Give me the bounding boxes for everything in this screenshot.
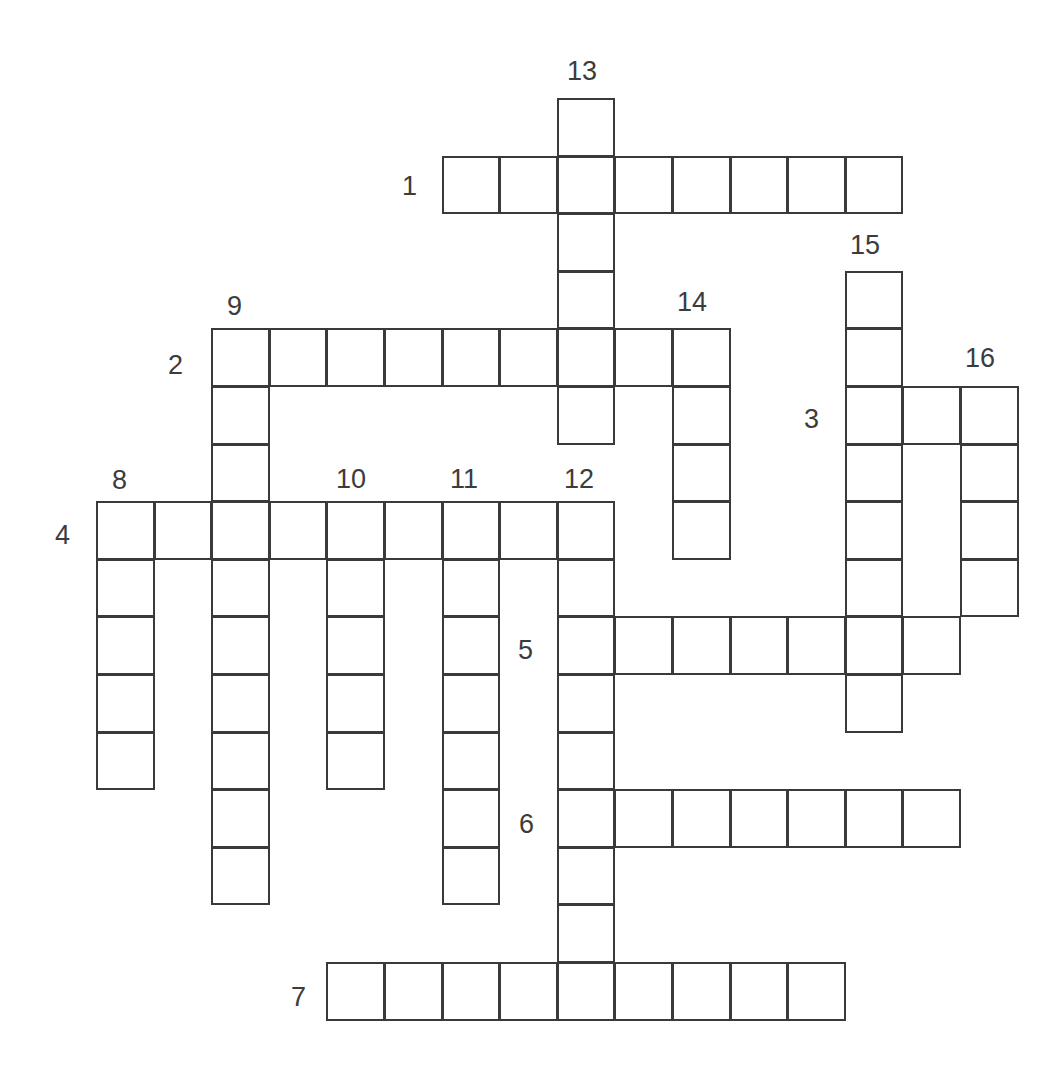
crossword-cell[interactable] bbox=[845, 444, 904, 503]
crossword-cell[interactable] bbox=[96, 674, 155, 733]
crossword-cell[interactable] bbox=[499, 501, 558, 560]
crossword-cell[interactable] bbox=[557, 904, 616, 963]
crossword-cell[interactable] bbox=[499, 156, 558, 215]
crossword-cell[interactable] bbox=[902, 386, 961, 445]
crossword-cell[interactable] bbox=[96, 559, 155, 618]
crossword-cell[interactable] bbox=[845, 501, 904, 560]
crossword-cell[interactable] bbox=[442, 616, 501, 675]
crossword-cell[interactable] bbox=[672, 616, 731, 675]
crossword-cell[interactable] bbox=[96, 732, 155, 791]
crossword-cell[interactable] bbox=[672, 156, 731, 215]
crossword-cell[interactable] bbox=[211, 616, 270, 675]
crossword-cell[interactable] bbox=[557, 328, 616, 387]
clue-number-down-14: 14 bbox=[677, 289, 707, 316]
crossword-cell[interactable] bbox=[787, 962, 846, 1021]
crossword-cell[interactable] bbox=[211, 559, 270, 618]
crossword-cell[interactable] bbox=[326, 962, 385, 1021]
crossword-cell[interactable] bbox=[672, 328, 731, 387]
crossword-cell[interactable] bbox=[442, 501, 501, 560]
clue-number-across-7: 7 bbox=[291, 984, 306, 1011]
crossword-cell[interactable] bbox=[557, 501, 616, 560]
crossword-cell[interactable] bbox=[211, 444, 270, 503]
crossword-cell[interactable] bbox=[672, 501, 731, 560]
crossword-cell[interactable] bbox=[557, 847, 616, 906]
crossword-cell[interactable] bbox=[557, 213, 616, 272]
crossword-cell[interactable] bbox=[845, 156, 904, 215]
crossword-cell[interactable] bbox=[960, 501, 1019, 560]
crossword-cell[interactable] bbox=[902, 616, 961, 675]
crossword-cell[interactable] bbox=[384, 962, 443, 1021]
crossword-cell[interactable] bbox=[154, 501, 213, 560]
clue-number-down-9: 9 bbox=[227, 293, 242, 320]
crossword-cell[interactable] bbox=[557, 156, 616, 215]
crossword-cell[interactable] bbox=[845, 386, 904, 445]
crossword-cell[interactable] bbox=[442, 847, 501, 906]
crossword-cell[interactable] bbox=[557, 559, 616, 618]
crossword-cell[interactable] bbox=[499, 328, 558, 387]
crossword-cell[interactable] bbox=[269, 501, 328, 560]
crossword-cell[interactable] bbox=[557, 732, 616, 791]
crossword-cell[interactable] bbox=[557, 98, 616, 157]
crossword-cell[interactable] bbox=[326, 732, 385, 791]
crossword-cell[interactable] bbox=[845, 559, 904, 618]
crossword-cell[interactable] bbox=[326, 674, 385, 733]
crossword-cell[interactable] bbox=[960, 386, 1019, 445]
crossword-cell[interactable] bbox=[672, 444, 731, 503]
crossword-cell[interactable] bbox=[269, 328, 328, 387]
crossword-cell[interactable] bbox=[211, 328, 270, 387]
crossword-cell[interactable] bbox=[326, 501, 385, 560]
crossword-cell[interactable] bbox=[557, 789, 616, 848]
crossword-cell[interactable] bbox=[499, 962, 558, 1021]
crossword-cell[interactable] bbox=[442, 328, 501, 387]
crossword-cell[interactable] bbox=[211, 501, 270, 560]
crossword-cell[interactable] bbox=[557, 962, 616, 1021]
crossword-cell[interactable] bbox=[211, 732, 270, 791]
crossword-cell[interactable] bbox=[730, 962, 789, 1021]
clue-number-across-5: 5 bbox=[518, 637, 533, 664]
crossword-cell[interactable] bbox=[557, 616, 616, 675]
crossword-cell[interactable] bbox=[960, 444, 1019, 503]
crossword-cell[interactable] bbox=[787, 789, 846, 848]
crossword-cell[interactable] bbox=[902, 789, 961, 848]
crossword-cell[interactable] bbox=[211, 847, 270, 906]
crossword-cell[interactable] bbox=[442, 732, 501, 791]
crossword-cell[interactable] bbox=[326, 616, 385, 675]
crossword-cell[interactable] bbox=[442, 674, 501, 733]
crossword-cell[interactable] bbox=[614, 789, 673, 848]
crossword-cell[interactable] bbox=[787, 616, 846, 675]
crossword-cell[interactable] bbox=[211, 386, 270, 445]
crossword-cell[interactable] bbox=[614, 616, 673, 675]
crossword-cell[interactable] bbox=[845, 789, 904, 848]
crossword-cell[interactable] bbox=[845, 271, 904, 330]
clue-number-down-13: 13 bbox=[567, 58, 597, 85]
crossword-cell[interactable] bbox=[557, 674, 616, 733]
crossword-cell[interactable] bbox=[960, 559, 1019, 618]
crossword-cell[interactable] bbox=[442, 559, 501, 618]
crossword-cell[interactable] bbox=[672, 386, 731, 445]
crossword-cell[interactable] bbox=[730, 156, 789, 215]
crossword-cell[interactable] bbox=[730, 616, 789, 675]
crossword-cell[interactable] bbox=[672, 962, 731, 1021]
crossword-cell[interactable] bbox=[211, 674, 270, 733]
crossword-cell[interactable] bbox=[787, 156, 846, 215]
crossword-cell[interactable] bbox=[384, 328, 443, 387]
crossword-cell[interactable] bbox=[614, 156, 673, 215]
crossword-cell[interactable] bbox=[845, 674, 904, 733]
crossword-cell[interactable] bbox=[96, 501, 155, 560]
crossword-cell[interactable] bbox=[614, 328, 673, 387]
crossword-cell[interactable] bbox=[384, 501, 443, 560]
crossword-cell[interactable] bbox=[326, 328, 385, 387]
crossword-cell[interactable] bbox=[442, 962, 501, 1021]
crossword-cell[interactable] bbox=[442, 789, 501, 848]
crossword-cell[interactable] bbox=[326, 559, 385, 618]
crossword-cell[interactable] bbox=[845, 328, 904, 387]
crossword-cell[interactable] bbox=[211, 789, 270, 848]
crossword-cell[interactable] bbox=[557, 271, 616, 330]
crossword-cell[interactable] bbox=[730, 789, 789, 848]
crossword-cell[interactable] bbox=[845, 616, 904, 675]
crossword-cell[interactable] bbox=[557, 386, 616, 445]
crossword-cell[interactable] bbox=[442, 156, 501, 215]
crossword-cell[interactable] bbox=[96, 616, 155, 675]
crossword-cell[interactable] bbox=[614, 962, 673, 1021]
crossword-cell[interactable] bbox=[672, 789, 731, 848]
